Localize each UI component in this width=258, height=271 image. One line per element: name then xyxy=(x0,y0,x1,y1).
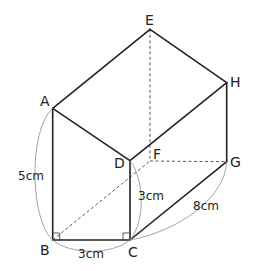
dimension-label-CD: 3cm xyxy=(138,189,164,203)
vertex-label-E: E xyxy=(145,12,154,28)
dimension-label-AB: 5cm xyxy=(18,169,44,183)
vertex-label-B: B xyxy=(40,242,50,258)
edge-AD xyxy=(53,108,130,160)
vertex-label-C: C xyxy=(128,244,138,260)
right-angle-C-icon xyxy=(123,233,130,240)
edge-AE xyxy=(53,29,150,108)
vertex-label-G: G xyxy=(230,154,241,170)
hidden-edge-FG xyxy=(150,161,227,162)
edge-DH xyxy=(130,83,227,161)
vertex-label-A: A xyxy=(40,93,50,109)
vertex-label-D: D xyxy=(114,155,125,171)
dimension-label-CG: 8cm xyxy=(193,199,219,213)
vertex-label-F: F xyxy=(153,146,161,162)
diagram-canvas: A B C D E F G H 5cm 3cm 3cm 8cm xyxy=(0,0,258,271)
dimension-label-BC: 3cm xyxy=(78,247,104,261)
hidden-edge-BF xyxy=(53,161,150,240)
prism-diagram: A B C D E F G H 5cm 3cm 3cm 8cm xyxy=(0,0,258,271)
edge-EH xyxy=(150,29,227,82)
vertex-label-H: H xyxy=(230,74,241,90)
